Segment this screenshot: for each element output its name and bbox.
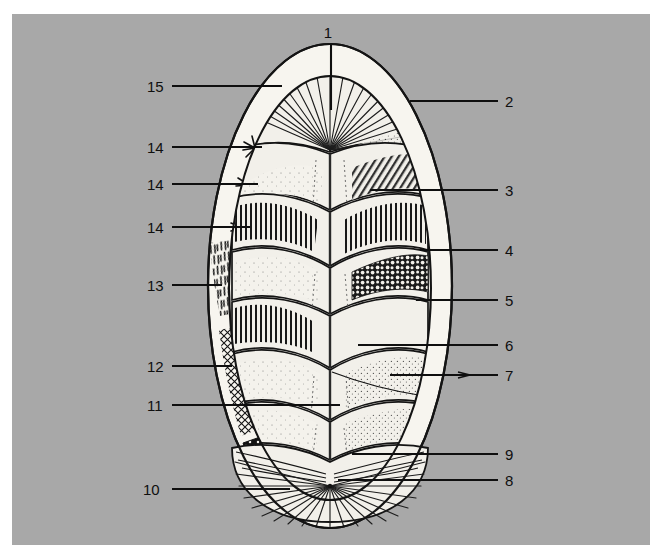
callout-number-8: 8: [505, 472, 513, 489]
callout-number-5: 5: [505, 292, 513, 309]
callout-number-4: 4: [505, 242, 513, 259]
callout-number-7: 7: [505, 367, 513, 384]
callout-number-1: 1: [324, 24, 332, 41]
chiton-body: [208, 44, 452, 528]
figure-root: 1 2 3 4 5 6 7 8 9 10 11 12 13 14 14 14 1…: [0, 0, 661, 559]
callout-number-14-c: 14: [147, 139, 164, 156]
callout-number-3: 3: [505, 182, 513, 199]
callout-number-15: 15: [147, 78, 164, 95]
callout-number-9: 9: [505, 446, 513, 463]
callout-number-6: 6: [505, 337, 513, 354]
callout-number-2: 2: [505, 93, 513, 110]
callout-number-10: 10: [143, 481, 160, 498]
callout-number-14-a: 14: [147, 219, 164, 236]
callout-number-13: 13: [147, 277, 164, 294]
callout-number-12: 12: [147, 358, 164, 375]
intermediate-valves: [232, 143, 428, 368]
callout-number-11: 11: [147, 397, 163, 414]
chiton-diagram: 1 2 3 4 5 6 7 8 9 10 11 12 13 14 14 14 1…: [0, 0, 661, 559]
callout-number-14-b: 14: [147, 176, 164, 193]
